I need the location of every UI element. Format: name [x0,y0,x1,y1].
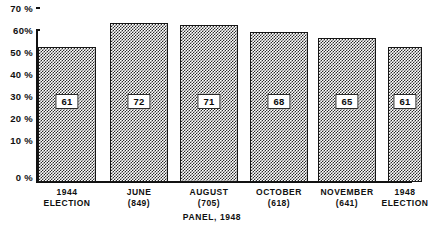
bar-value-label: 68 [267,94,290,109]
x-category-1944-election: 1944 ELECTION [26,187,108,209]
y-tick-label-40: 40 % [10,69,33,80]
y-tick-20: 20 % [0,113,33,124]
y-tick-label-0: 0 % [16,172,33,183]
category-line1: 1948 [395,187,416,197]
y-tick-mark-60 [36,29,40,31]
y-tick-label-20: 20 % [10,113,33,124]
category-line2: ELECTION [26,198,108,209]
y-tick-label-70: 70 % [10,3,33,14]
y-tick-0: 0 % [0,172,33,183]
bar-value-label: 61 [393,94,416,109]
y-tick-label-30: 30 % [10,91,33,102]
bar-november: 65 [318,38,376,182]
bar-value-label: 61 [55,94,78,109]
y-tick-50: 50 % [0,47,33,58]
y-tick-label-10: 10 % [10,135,33,146]
y-tick-70: 70 % [0,3,33,14]
bar-august: 71 [180,25,238,182]
y-tick-60: 60% [0,25,33,36]
y-tick-mark-70 [36,7,40,9]
bar-value-label: 65 [335,94,358,109]
bar-1948-election: 61 [388,47,422,182]
x-category-1948-election: 1948 ELECTION [368,187,432,209]
bar-october: 68 [250,32,308,182]
x-axis-title: PANEL, 1948 [0,212,424,222]
category-line1: OCTOBER [256,187,302,197]
category-line2: ELECTION [368,198,432,209]
bar-value-label: 72 [127,94,150,109]
category-line1: 1944 [57,187,78,197]
y-tick-30: 30 % [0,91,33,102]
category-line1: JUNE [127,187,152,197]
y-tick-label-60: 60% [13,25,33,36]
category-line1: AUGUST [190,187,229,197]
y-tick-label-50: 50 % [10,47,33,58]
bar-june: 72 [110,23,168,182]
y-tick-10: 10 % [0,135,33,146]
bar-value-label: 71 [197,94,220,109]
category-line1: NOVEMBER [320,187,373,197]
y-tick-40: 40 % [0,69,33,80]
bar-1944-election: 61 [38,47,96,182]
